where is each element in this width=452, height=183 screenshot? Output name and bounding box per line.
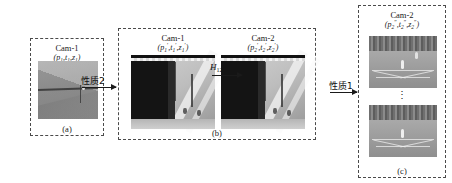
court-line: [372, 70, 435, 71]
player-marker: [197, 110, 201, 116]
panel-b-caption: (b): [119, 128, 315, 138]
occluded-band: [131, 59, 168, 119]
panel-c-caption: (c): [359, 166, 445, 176]
crowd-stand: [369, 36, 437, 52]
panel-a-camera-title: Cam-1: [31, 43, 103, 53]
player-marker: [287, 110, 291, 116]
player-marker: [415, 52, 418, 59]
panel-b-left-camera-title: Cam-1: [131, 33, 215, 43]
player-marker: [273, 108, 277, 114]
panel-b-left-camera-params: (p1′,t1′,z1′): [131, 43, 215, 53]
homography-symbol: H: [210, 62, 217, 72]
court-region: [369, 51, 437, 88]
arrow-a-to-b: [82, 87, 116, 88]
player-marker: [401, 129, 404, 138]
panel-a-caption: (a): [31, 124, 103, 134]
panel-c: Cam-2 (p2″,t2″,z2″) ⋮ (c): [358, 5, 446, 178]
figure-canvas: Cam-1 (p1,t1,z1) (a) Cam-1 (p1′,t1′,z1′)…: [0, 0, 452, 183]
net-pole: [281, 74, 282, 107]
panel-c-camera-title: Cam-2: [359, 10, 445, 20]
player-marker: [183, 108, 187, 114]
arrow-b-to-c: [330, 92, 357, 93]
panel-c-camera-params: (p2″,t2″,z2″): [359, 20, 445, 30]
panel-b-right-camera-params: (p2′,t2′,z2′): [221, 43, 305, 53]
court-line: [372, 139, 435, 140]
arrow-b-to-c-label: 性质1: [329, 79, 353, 92]
net-pole: [175, 62, 176, 100]
arrow-homography: [212, 75, 242, 76]
occluded-band-soft: [168, 59, 175, 119]
court-region: [369, 120, 437, 157]
player-marker: [401, 60, 404, 69]
panel-c-ellipsis: ⋮: [359, 90, 445, 100]
court-diagonal: [38, 87, 98, 119]
panel-b: Cam-1 (p1′,t1′,z1′) Cam-2 (p2′,t2′,z2′): [118, 28, 316, 140]
panel-b-right-image: [221, 55, 305, 129]
homography-subscript: 12: [217, 67, 223, 73]
net-pole: [191, 74, 192, 107]
arrow-a-to-b-label: 性质2: [81, 74, 105, 87]
net-pole: [265, 62, 266, 100]
occluded-band: [221, 59, 258, 119]
homography-label: H12: [210, 62, 223, 72]
crowd-stand: [369, 105, 437, 121]
panel-b-right-camera-title: Cam-2: [221, 33, 305, 43]
occluded-band-soft: [258, 59, 265, 119]
horizon-wave: [131, 58, 215, 61]
horizon-wave: [221, 58, 305, 61]
panel-b-left-image: [131, 55, 215, 129]
panel-c-image-bottom: [369, 105, 437, 157]
panel-b-right-header: Cam-2 (p2′,t2′,z2′): [221, 33, 305, 53]
panel-a-image: [38, 61, 98, 119]
panel-b-left-header: Cam-1 (p1′,t1′,z1′): [131, 33, 215, 53]
panel-c-image-top: [369, 36, 437, 88]
